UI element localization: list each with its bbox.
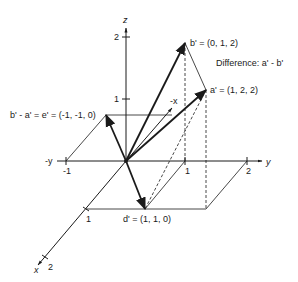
origin-point [124,159,128,163]
y-axis-label: y [266,157,271,167]
neg-y-axis-label: -y [45,156,53,166]
diagram-title: Difference: a' - b' [216,58,283,68]
vector-d [126,161,145,209]
y-axis [57,157,262,165]
z-axis-label: z [123,15,128,25]
x-axis [38,108,172,265]
dashed-projections [145,43,206,209]
vector-e [106,115,126,161]
vector-b-label: b' = (0, 1, 2) [190,38,238,48]
neg-x-axis-label: -x [170,96,178,106]
vector-e-label: b' - a' = e' = (-1, -1, 0) [10,110,96,120]
x-axis-label: x [34,265,39,275]
y-tick-neg-1: -1 [63,166,71,176]
z-tick-2: 2 [114,32,119,42]
x-tick-1: 1 [86,214,91,224]
z-tick-1: 1 [114,94,119,104]
y-tick-2: 2 [246,166,251,176]
y-tick-1: 1 [185,166,190,176]
vector-a-label: a' = (1, 2, 2) [210,85,258,95]
vector-diagram [0,0,298,282]
vector-d-label: d' = (1, 1, 0) [123,214,171,224]
x-tick-2: 2 [48,262,53,272]
z-axis [122,28,130,161]
vector-a [126,90,206,161]
